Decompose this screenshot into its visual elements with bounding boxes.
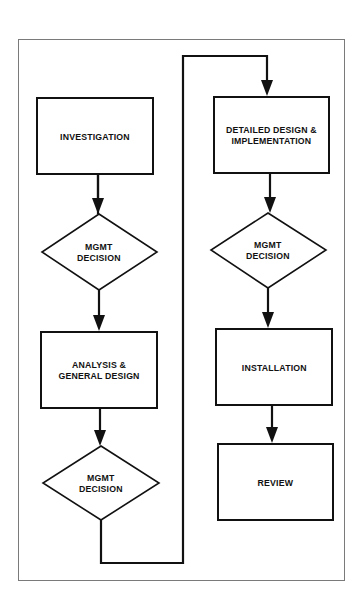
arrowhead-6 <box>262 312 274 328</box>
detailed-design-box: DETAILED DESIGN & IMPLEMENTATION <box>213 96 330 174</box>
decision-2-label: MGMT DECISION <box>79 472 123 494</box>
investigation-label: INVESTIGATION <box>60 131 130 142</box>
analysis-box: ANALYSIS & GENERAL DESIGN <box>40 331 158 409</box>
arrowhead-4 <box>261 80 273 96</box>
review-label: REVIEW <box>258 477 294 488</box>
decision-3-label: MGMT DECISION <box>246 239 290 261</box>
investigation-box: INVESTIGATION <box>36 97 154 175</box>
flowchart-connectors <box>0 0 363 613</box>
decision-1-label-wrap: MGMT DECISION <box>52 236 146 268</box>
detailed-design-label: DETAILED DESIGN & IMPLEMENTATION <box>226 124 317 146</box>
review-box: REVIEW <box>217 443 334 521</box>
installation-box: INSTALLATION <box>215 328 333 406</box>
decision-2-label-wrap: MGMT DECISION <box>54 467 148 499</box>
installation-label: INSTALLATION <box>241 362 306 373</box>
arrowhead-7 <box>266 427 278 443</box>
arrowhead-3 <box>94 430 106 446</box>
analysis-label: ANALYSIS & GENERAL DESIGN <box>58 359 139 381</box>
arrowhead-5 <box>264 197 276 213</box>
decision-1-label: MGMT DECISION <box>77 241 121 263</box>
arrowhead-2 <box>93 315 105 331</box>
arrowhead-1 <box>92 198 104 214</box>
decision-3-label-wrap: MGMT DECISION <box>221 234 315 266</box>
